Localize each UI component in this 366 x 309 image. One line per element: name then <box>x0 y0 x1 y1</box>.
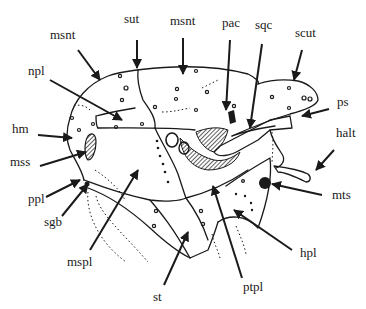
arrow-ptpl <box>213 186 242 278</box>
seta <box>92 123 95 126</box>
seta-dot <box>156 140 159 143</box>
seta <box>205 90 208 93</box>
dotted-line-5 <box>162 108 190 112</box>
label-ptpl: ptpl <box>243 280 263 293</box>
dotted-line-4 <box>74 105 90 110</box>
label-msnt-top: msnt <box>170 14 195 27</box>
arrow-mts <box>272 184 322 195</box>
seta-dot <box>251 209 253 211</box>
seta <box>175 87 178 90</box>
scutellum-outline <box>232 80 318 136</box>
hatched-sclerite-1 <box>196 128 228 152</box>
label-mspl: mspl <box>67 255 92 268</box>
seta-dot <box>167 181 170 184</box>
arrow-ppl <box>46 180 80 197</box>
seta-dot <box>162 163 165 166</box>
sternum-edge <box>150 200 218 258</box>
humeral-lobe <box>67 118 84 180</box>
arrow-scut <box>294 50 302 80</box>
label-ps: ps <box>337 95 349 108</box>
seta <box>71 117 74 120</box>
halter <box>274 166 310 182</box>
arrow-ps <box>302 109 329 116</box>
seta-dot <box>159 155 162 158</box>
label-pac: pac <box>222 16 240 29</box>
seta <box>308 97 312 101</box>
label-mss: mss <box>10 155 30 168</box>
label-hpl: hpl <box>300 246 317 259</box>
seta <box>152 224 155 227</box>
metanotum-line <box>270 130 284 168</box>
label-halt: halt <box>336 126 356 139</box>
thorax-illustration <box>0 0 366 309</box>
seta <box>302 96 306 100</box>
sternopleuron-curve <box>88 188 190 258</box>
metathoracic-spiracle <box>259 177 271 189</box>
mesopleuron-upper <box>98 128 195 130</box>
arrow-sqc <box>250 44 262 128</box>
label-sqc: sqc <box>255 18 272 31</box>
seta-dot <box>157 147 160 150</box>
arrow-mss <box>40 152 86 166</box>
dotted-line-1 <box>95 170 125 200</box>
label-sut: sut <box>124 12 139 25</box>
seta <box>199 209 202 212</box>
hatched-sclerite-3 <box>228 110 236 124</box>
seta-dot <box>250 202 252 204</box>
wing-base-oval-1 <box>166 133 178 147</box>
dotted-line-8 <box>236 226 246 254</box>
dotted-line-6 <box>272 132 273 164</box>
seta <box>288 107 291 110</box>
pteropleuron <box>186 198 208 240</box>
arrow-sgb <box>62 184 88 216</box>
mesonotum-outline <box>70 67 259 118</box>
seta <box>141 123 144 126</box>
seta <box>201 222 204 225</box>
label-ppl: ppl <box>28 192 45 205</box>
thorax-diagram: msnt sut msnt pac sqc scut npl ps hm hal… <box>0 0 366 309</box>
mesopleuron-posterior <box>155 128 186 198</box>
seta <box>175 98 178 101</box>
seta <box>195 70 198 73</box>
seta <box>124 86 128 90</box>
dotted-line-9 <box>202 80 218 88</box>
seta <box>242 180 245 183</box>
arrow-npl <box>50 80 122 120</box>
seta <box>153 105 156 108</box>
seta-dot <box>164 171 167 174</box>
seta <box>232 104 235 107</box>
arrow-hpl <box>234 210 292 250</box>
arrow-st <box>164 232 188 285</box>
seta <box>118 74 121 77</box>
seta <box>78 129 81 132</box>
arrow-halt <box>316 150 334 170</box>
seta <box>115 126 118 129</box>
dotted-line-2 <box>88 192 126 262</box>
transverse-suture <box>138 70 155 128</box>
seta <box>120 98 123 101</box>
label-sgb: sgb <box>44 215 62 228</box>
seta <box>154 209 157 212</box>
label-mts: mts <box>332 188 351 201</box>
arrow-mspl <box>90 170 138 250</box>
label-st: st <box>153 290 162 303</box>
mesothoracic-spiracle <box>85 134 96 160</box>
label-scut: scut <box>295 26 316 39</box>
seta-dot <box>235 193 237 195</box>
seta <box>270 95 273 98</box>
arrow-pac <box>226 40 230 110</box>
label-npl: npl <box>28 64 45 77</box>
seta <box>288 87 291 90</box>
pleural-lower <box>84 170 248 201</box>
label-msnt-left: msnt <box>50 28 75 41</box>
seta <box>195 109 198 112</box>
seta-dot <box>244 195 246 197</box>
label-hm: hm <box>12 122 29 135</box>
arrow-msnt-left <box>78 50 100 80</box>
